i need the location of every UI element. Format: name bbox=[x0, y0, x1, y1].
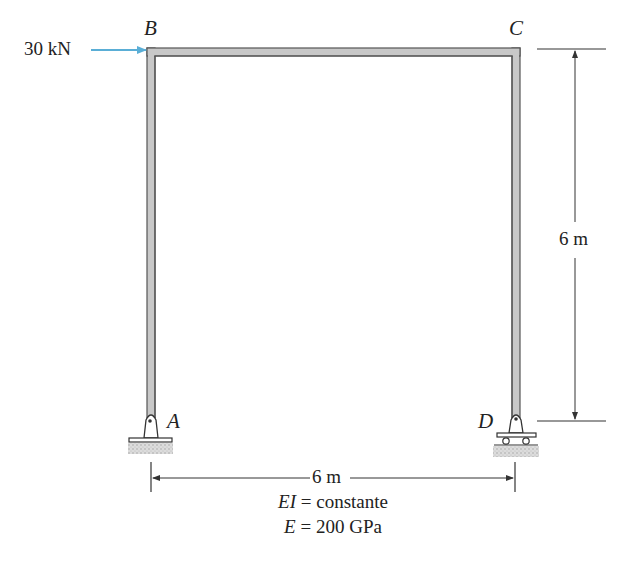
beam-bc bbox=[147, 48, 520, 56]
column-cd bbox=[512, 48, 520, 418]
ei-value: = constante bbox=[296, 491, 388, 512]
ei-symbol: EI bbox=[278, 491, 296, 512]
e-value: = 200 GPa bbox=[296, 516, 382, 537]
e-property: E = 200 GPa bbox=[233, 516, 433, 538]
e-symbol: E bbox=[284, 516, 296, 537]
span-dimension-label: 6 m bbox=[310, 466, 343, 488]
ground-a bbox=[128, 443, 173, 454]
roller-support-d bbox=[493, 415, 539, 457]
frame-members bbox=[147, 48, 520, 418]
load-label: 30 kN bbox=[24, 38, 71, 60]
ground-d bbox=[493, 446, 539, 457]
node-label-c: C bbox=[509, 16, 523, 41]
column-ab bbox=[147, 48, 155, 418]
height-dimension-label: 6 m bbox=[557, 228, 590, 250]
node-label-d: D bbox=[478, 409, 493, 434]
node-label-a: A bbox=[167, 409, 180, 434]
node-label-b: B bbox=[144, 16, 157, 41]
ei-property: EI = constante bbox=[233, 491, 433, 513]
